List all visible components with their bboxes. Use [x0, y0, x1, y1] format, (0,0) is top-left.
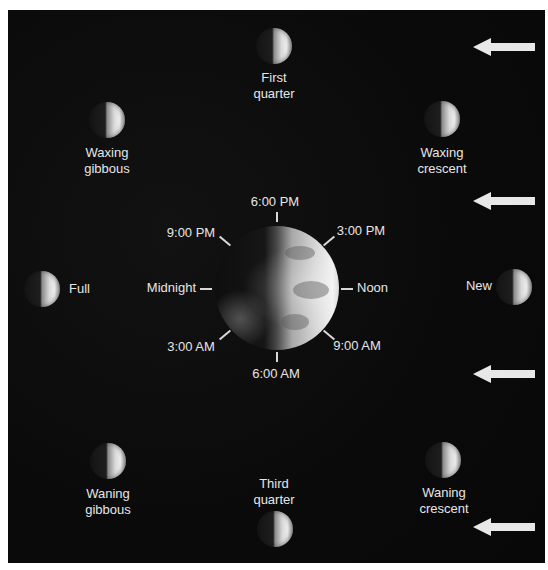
label-third-quarter: Third quarter: [253, 476, 294, 508]
tick-6am: [276, 352, 278, 362]
time-label-3pm: 3:00 PM: [337, 223, 385, 239]
label-waning-crescent: Waning crescent: [419, 485, 468, 517]
time-label-9pm: 9:00 PM: [167, 225, 215, 241]
label-full: Full: [69, 281, 90, 297]
label-line: quarter: [253, 492, 294, 508]
time-label-3am: 3:00 AM: [167, 339, 215, 355]
tick-noon: [341, 288, 353, 290]
moon-new: [496, 269, 532, 305]
sunlight-arrow-icon: [473, 365, 535, 383]
moon-third-quarter: [257, 511, 293, 547]
moon-waning-gibbous: [90, 443, 126, 479]
label-line: Waning: [419, 485, 468, 501]
label-line: quarter: [253, 86, 294, 102]
time-label-9am: 9:00 AM: [333, 338, 381, 354]
sunlight-arrow-icon: [473, 192, 535, 210]
time-label-6am: 6:00 AM: [252, 366, 300, 382]
label-waxing-gibbous: Waxing gibbous: [84, 145, 130, 177]
sunlight-arrow-icon: [473, 518, 535, 536]
time-label-6pm: 6:00 PM: [251, 194, 299, 210]
time-label-noon: Noon: [357, 280, 388, 296]
time-label-midnight: Midnight: [147, 280, 196, 296]
label-line: crescent: [419, 501, 468, 517]
label-line: gibbous: [84, 161, 130, 177]
label-line: Waxing: [84, 145, 130, 161]
tick-midnight: [200, 288, 212, 290]
label-line: gibbous: [85, 502, 131, 518]
sunlight-arrow-icon: [473, 38, 535, 56]
label-waxing-crescent: Waxing crescent: [417, 145, 466, 177]
label-line: Third: [253, 476, 294, 492]
label-line: crescent: [417, 161, 466, 177]
label-waning-gibbous: Waning gibbous: [85, 486, 131, 518]
label-line: First: [253, 70, 294, 86]
moon-waxing-gibbous: [89, 102, 125, 138]
moon-waxing-crescent: [424, 101, 460, 137]
tick-6pm: [276, 212, 278, 222]
moon-full: [24, 271, 60, 307]
moon-first-quarter: [256, 28, 292, 64]
moon-waning-crescent: [425, 442, 461, 478]
label-first-quarter: First quarter: [253, 70, 294, 102]
label-line: Waxing: [417, 145, 466, 161]
label-new: New: [466, 278, 492, 294]
label-line: Waning: [85, 486, 131, 502]
earth: [215, 226, 339, 350]
